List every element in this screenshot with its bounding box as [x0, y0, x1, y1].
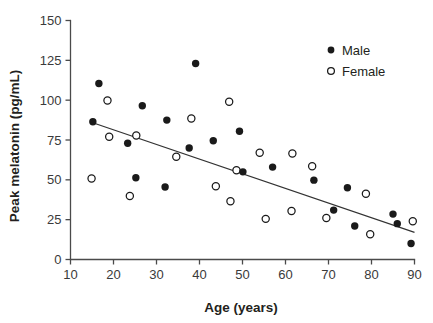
- data-point-female: [256, 149, 263, 156]
- data-point-female: [133, 132, 140, 139]
- y-tick-label: 50: [47, 172, 61, 187]
- data-point-male: [330, 206, 337, 213]
- y-tick-label: 100: [40, 93, 62, 108]
- data-point-female: [226, 98, 233, 105]
- data-point-female: [173, 153, 180, 160]
- data-point-female: [409, 218, 416, 225]
- x-tick-label: 30: [149, 267, 163, 282]
- x-tick-label: 50: [235, 267, 249, 282]
- x-tick-label: 10: [63, 267, 77, 282]
- data-point-male: [163, 116, 170, 123]
- data-point-female: [126, 192, 133, 199]
- data-point-male: [192, 60, 199, 67]
- data-point-female: [233, 167, 240, 174]
- x-tick-label: 70: [321, 267, 335, 282]
- data-point-female: [106, 133, 113, 140]
- legend-label-male: Male: [342, 43, 370, 58]
- data-point-male: [310, 176, 317, 183]
- x-tick-label: 90: [407, 267, 421, 282]
- legend-label-female: Female: [342, 64, 385, 79]
- x-tick-label: 40: [192, 267, 206, 282]
- data-point-female: [104, 97, 111, 104]
- data-point-male: [344, 184, 351, 191]
- y-tick-label: 25: [47, 212, 61, 227]
- data-point-female: [289, 150, 296, 157]
- data-point-female: [323, 214, 330, 221]
- legend-female-marker-icon: [328, 68, 335, 75]
- data-point-male: [124, 139, 131, 146]
- data-point-female: [367, 231, 374, 238]
- legend-male-marker-icon: [328, 47, 335, 54]
- data-point-male: [236, 128, 243, 135]
- data-point-female: [262, 215, 269, 222]
- data-point-male: [389, 210, 396, 217]
- data-point-male: [210, 137, 217, 144]
- data-point-female: [227, 198, 234, 205]
- x-tick-label: 20: [106, 267, 120, 282]
- data-point-female: [362, 190, 369, 197]
- y-axis-title: Peak melatonin (pg/mL): [7, 70, 22, 222]
- x-tick-label: 60: [278, 267, 292, 282]
- data-point-male: [139, 102, 146, 109]
- data-point-male: [185, 144, 192, 151]
- x-tick-label: 80: [364, 267, 378, 282]
- data-point-female: [309, 163, 316, 170]
- data-point-male: [269, 163, 276, 170]
- x-axis-title: Age (years): [204, 300, 278, 315]
- x-axis-tick-labels: 102030405060708090: [63, 267, 421, 282]
- data-point-female: [88, 175, 95, 182]
- y-tick-label: 0: [54, 252, 61, 267]
- data-point-female: [212, 183, 219, 190]
- data-point-male: [161, 183, 168, 190]
- data-point-male: [407, 240, 414, 247]
- data-point-male: [351, 222, 358, 229]
- figure-container: 0255075100125150 102030405060708090 Age …: [0, 0, 433, 323]
- y-tick-label: 125: [40, 53, 62, 68]
- data-point-female: [288, 207, 295, 214]
- data-point-male: [239, 168, 246, 175]
- data-point-male: [132, 174, 139, 181]
- data-point-male: [394, 220, 401, 227]
- y-tick-label: 150: [40, 13, 62, 28]
- scatter-chart: 0255075100125150 102030405060708090 Age …: [0, 0, 433, 323]
- y-tick-label: 75: [47, 133, 61, 148]
- data-point-male: [95, 80, 102, 87]
- data-point-male: [89, 118, 96, 125]
- data-point-female: [188, 115, 195, 122]
